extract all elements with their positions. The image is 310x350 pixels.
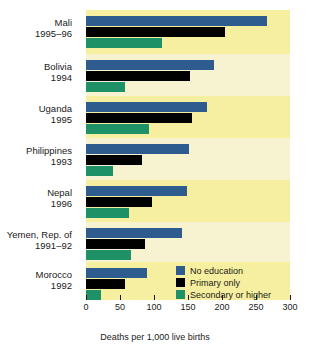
bar (86, 290, 101, 300)
bar (86, 71, 190, 81)
legend-item-primary-only: Primary only (176, 277, 271, 288)
bar-group (86, 186, 290, 218)
bar (86, 60, 214, 70)
x-axis-tick (86, 295, 87, 300)
legend-item-secondary-or-higher: Secondary or higher (176, 289, 271, 300)
category-label: Nepal1996 (0, 187, 72, 209)
category-year: 1995–96 (0, 28, 72, 39)
category-year: 1995 (0, 114, 72, 125)
bar-group (86, 16, 290, 48)
category-label: Yemen, Rep. of1991–92 (0, 229, 72, 251)
legend-label-secondary-or-higher: Secondary or higher (190, 290, 271, 300)
category-year: 1991–92 (0, 240, 72, 251)
x-axis-tick-label: 0 (83, 302, 88, 312)
x-axis-title: Deaths per 1,000 live births (0, 332, 310, 342)
legend-swatch-secondary-or-higher (176, 290, 185, 299)
bar (86, 279, 125, 289)
plot-area (86, 10, 290, 300)
bar-group (86, 102, 290, 134)
bar-group (86, 144, 290, 176)
category-name: Nepal (0, 187, 72, 198)
legend-item-no-education: No education (176, 265, 271, 276)
legend-swatch-primary-only (176, 278, 185, 287)
bar (86, 186, 187, 196)
x-axis-tick (290, 295, 291, 300)
chart-legend: No education Primary only Secondary or h… (176, 265, 271, 301)
category-label: Philippines1993 (0, 145, 72, 167)
x-axis-tick-label: 100 (146, 302, 161, 312)
category-label: Mali1995–96 (0, 17, 72, 39)
category-year: 1992 (0, 280, 72, 291)
bar-group (86, 60, 290, 92)
category-label: Bolivia1994 (0, 61, 72, 83)
legend-label-no-education: No education (190, 266, 243, 276)
bar (86, 228, 182, 238)
bar (86, 38, 162, 48)
category-name: Mali (0, 17, 72, 28)
category-name: Uganda (0, 103, 72, 114)
bar (86, 82, 125, 92)
category-year: 1993 (0, 156, 72, 167)
bar (86, 102, 207, 112)
category-year: 1996 (0, 198, 72, 209)
category-name: Bolivia (0, 61, 72, 72)
bar (86, 113, 192, 123)
category-label: Morocco1992 (0, 269, 72, 291)
bar (86, 155, 142, 165)
x-axis-tick-label: 300 (282, 302, 297, 312)
legend-swatch-no-education (176, 266, 185, 275)
bar (86, 197, 152, 207)
bar (86, 166, 113, 176)
x-axis-tick (120, 295, 121, 300)
chart-figure: 050100150200250300 Deaths per 1,000 live… (0, 0, 310, 350)
x-axis-tick-label: 250 (248, 302, 263, 312)
category-name: Philippines (0, 145, 72, 156)
bar (86, 16, 267, 26)
bar (86, 268, 147, 278)
bar (86, 239, 145, 249)
x-axis-tick-label: 150 (180, 302, 195, 312)
bar (86, 124, 149, 134)
bar (86, 144, 189, 154)
category-label: Uganda1995 (0, 103, 72, 125)
bar (86, 208, 129, 218)
x-axis-tick (154, 295, 155, 300)
bar (86, 27, 225, 37)
category-year: 1994 (0, 72, 72, 83)
category-name: Morocco (0, 269, 72, 280)
bar (86, 250, 131, 260)
bar-group (86, 228, 290, 260)
legend-label-primary-only: Primary only (190, 278, 240, 288)
category-name: Yemen, Rep. of (0, 229, 72, 240)
x-axis-tick-label: 200 (214, 302, 229, 312)
x-axis-tick-label: 50 (115, 302, 125, 312)
